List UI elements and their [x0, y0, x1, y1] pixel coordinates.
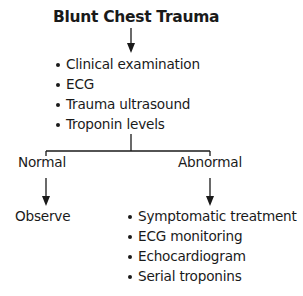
list-item: Serial troponins	[128, 266, 297, 286]
arrow-normal-to-observe	[42, 178, 50, 206]
branch-label-normal: Normal	[18, 152, 66, 172]
list-item: ECG	[56, 74, 200, 94]
list-item: ECG monitoring	[128, 226, 297, 246]
diagram-title: Blunt Chest Trauma	[53, 8, 219, 26]
arrow-abnormal-to-actions	[206, 178, 214, 206]
branch-label-abnormal: Abnormal	[178, 152, 242, 172]
list-item: Echocardiogram	[128, 246, 297, 266]
list-item: Clinical examination	[56, 54, 200, 74]
normal-outcome: Observe	[15, 206, 70, 226]
list-item: Symptomatic treatment	[128, 206, 297, 226]
initial-steps-list: Clinical examination ECG Trauma ultrasou…	[56, 54, 200, 134]
abnormal-actions-list: Symptomatic treatment ECG monitoring Ech…	[128, 206, 297, 286]
arrow-title-to-steps	[127, 28, 135, 53]
list-item: Troponin levels	[56, 114, 200, 134]
list-item: Trauma ultrasound	[56, 94, 200, 114]
